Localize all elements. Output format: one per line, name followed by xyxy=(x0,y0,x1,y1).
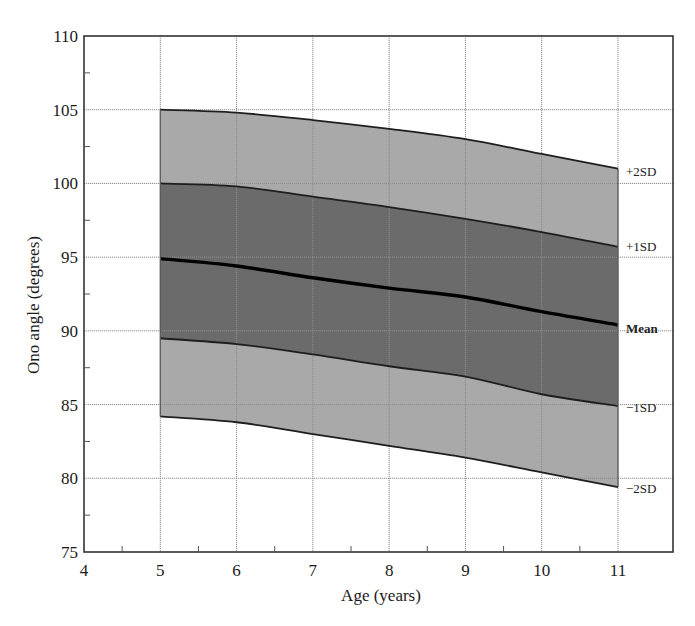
y-tick-label: 95 xyxy=(61,248,78,267)
y-tick-label: 100 xyxy=(53,174,79,193)
y-tick-label: 105 xyxy=(53,101,79,120)
y-axis-title: Ono angle (degrees) xyxy=(24,236,43,374)
band-label-mean: Mean xyxy=(626,321,659,336)
y-tick-label: 75 xyxy=(61,543,78,562)
x-tick-label: 10 xyxy=(533,561,550,580)
band-label-plus1sd: +1SD xyxy=(626,239,656,254)
x-tick-label: 9 xyxy=(461,561,470,580)
band-label-minus2sd: −2SD xyxy=(626,481,656,496)
band-label-minus1sd: −1SD xyxy=(626,400,656,415)
y-tick-label: 80 xyxy=(61,469,78,488)
x-tick-label: 7 xyxy=(309,561,318,580)
band-label-plus2sd: +2SD xyxy=(626,164,656,179)
ono-angle-chart: 4567891011 7580859095100105110 +2SD+1SDM… xyxy=(0,0,695,626)
y-tick-label: 85 xyxy=(61,396,78,415)
x-tick-label: 11 xyxy=(610,561,626,580)
x-tick-label: 6 xyxy=(232,561,241,580)
x-axis-title: Age (years) xyxy=(341,586,421,605)
y-tick-label: 90 xyxy=(61,322,78,341)
x-tick-label: 4 xyxy=(80,561,89,580)
x-tick-label: 8 xyxy=(385,561,394,580)
x-tick-label: 5 xyxy=(156,561,165,580)
y-tick-label: 110 xyxy=(53,27,78,46)
